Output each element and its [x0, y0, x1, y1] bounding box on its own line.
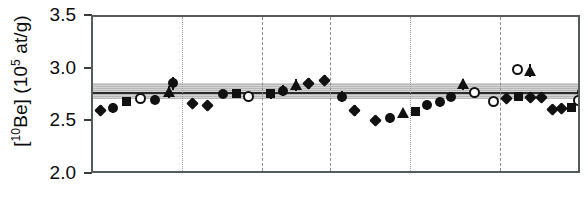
data-point	[574, 84, 581, 100]
marker-circle-open	[488, 96, 499, 107]
marker-circle	[278, 86, 288, 96]
marker-diamond	[369, 114, 382, 127]
marker-circle	[577, 87, 581, 97]
data-point	[301, 75, 317, 91]
marker-diamond	[348, 104, 361, 117]
marker-circle	[337, 92, 347, 102]
marker-diamond	[202, 99, 215, 112]
plot-area	[91, 15, 580, 173]
y-axis-tick-label: 3.0	[30, 58, 76, 78]
y-axis-tick-labels: 2.02.53.03.5	[30, 0, 76, 207]
vertical-separator-line	[182, 17, 183, 171]
marker-diamond	[318, 74, 331, 87]
marker-circle	[150, 95, 160, 105]
y-axis-tick-label: 2.5	[30, 110, 76, 130]
data-point	[241, 88, 257, 104]
y-axis-tick-label: 2.0	[30, 163, 76, 183]
be10-concentration-scatter-figure: [10Be] (105 at/g) 2.02.53.03.5	[0, 0, 588, 207]
data-point	[467, 85, 483, 101]
marker-circle	[218, 89, 228, 99]
marker-diamond	[186, 97, 199, 110]
marker-circle-open	[243, 91, 254, 102]
marker-circle	[168, 78, 178, 88]
vertical-separator-line	[330, 17, 331, 171]
marker-diamond	[302, 77, 315, 90]
vertical-separator-line	[410, 17, 411, 171]
data-point	[185, 95, 201, 111]
marker-circle-open	[469, 87, 480, 98]
data-point	[165, 75, 181, 91]
y-axis-title-text: [10Be] (105 at/g)	[10, 15, 31, 147]
data-point	[317, 72, 333, 88]
marker-triangle	[579, 69, 580, 80]
marker-circle-open	[135, 93, 146, 104]
marker-square	[122, 97, 131, 106]
y-axis-tick-label: 3.5	[30, 5, 76, 25]
marker-circle	[446, 92, 456, 102]
marker-square	[411, 107, 420, 116]
marker-triangle	[524, 65, 536, 76]
data-point	[522, 63, 538, 79]
data-point	[200, 97, 216, 113]
marker-square	[266, 89, 275, 98]
data-point	[577, 67, 580, 83]
marker-circle	[385, 113, 395, 123]
marker-circle	[108, 103, 118, 113]
data-point	[347, 103, 363, 119]
marker-square	[232, 89, 241, 98]
